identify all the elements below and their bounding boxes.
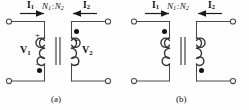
current-arrow-i2 xyxy=(73,10,97,16)
current-arrow-i2 xyxy=(198,10,222,16)
terminal-secondary-bottom xyxy=(230,78,235,83)
current-label-i2: I2 xyxy=(208,1,215,11)
current-arrow-i1 xyxy=(145,10,169,16)
panel-b-caption: (b) xyxy=(176,95,187,104)
terminal-primary-bottom xyxy=(131,78,136,83)
polarity-dot-secondary xyxy=(199,68,204,73)
polarity-sign-primary-plus: + xyxy=(35,31,40,40)
terminal-secondary-top xyxy=(105,19,110,24)
polarity-sign-primary-minus: − xyxy=(35,60,40,69)
primary-coil xyxy=(161,38,170,66)
voltage-label-v2: V2 xyxy=(82,45,93,56)
terminal-primary-top xyxy=(6,19,11,24)
polarity-sign-secondary-minus: − xyxy=(74,60,79,69)
transformer-circuit-panel-b: I1 N1:N2 I2 (b) xyxy=(125,0,249,110)
current-arrow-i1 xyxy=(20,10,44,16)
terminal-primary-top xyxy=(131,19,136,24)
transformer-core xyxy=(56,37,60,65)
terminal-secondary-top xyxy=(230,19,235,24)
panel-b-schematic xyxy=(125,0,249,110)
figure-root: I1 N1:N2 I2 + − + − V1 V2 (a) xyxy=(0,0,249,110)
voltage-label-v1: V1 xyxy=(20,45,31,56)
terminal-primary-bottom xyxy=(6,78,11,83)
panel-a-schematic xyxy=(0,0,124,110)
current-label-i1: I1 xyxy=(152,1,159,11)
polarity-dot-secondary xyxy=(74,29,79,34)
turns-ratio-label: N1:N2 xyxy=(167,2,189,12)
secondary-coil xyxy=(197,38,206,66)
turns-ratio-label: N1:N2 xyxy=(42,2,64,12)
current-label-i1: I1 xyxy=(27,1,34,11)
polarity-sign-secondary-plus: + xyxy=(74,36,79,45)
current-label-i2: I2 xyxy=(83,1,90,11)
polarity-dot-primary xyxy=(162,29,167,34)
terminal-secondary-bottom xyxy=(105,78,110,83)
panel-a-caption: (a) xyxy=(51,95,61,104)
transformer-core xyxy=(181,37,185,65)
transformer-circuit-panel-a: I1 N1:N2 I2 + − + − V1 V2 (a) xyxy=(0,0,124,110)
